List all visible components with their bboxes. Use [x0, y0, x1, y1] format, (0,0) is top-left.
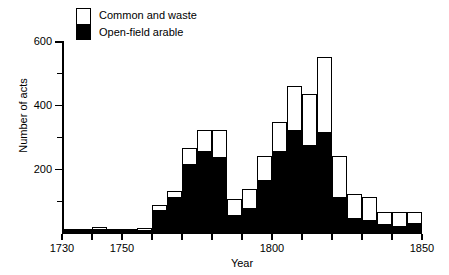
bar-segment-common-and-waste-1825 [347, 194, 362, 219]
bar-segment-common-and-waste-1770 [182, 148, 197, 165]
bar-segment-common-and-waste-1800 [272, 122, 287, 152]
bar-1800 [272, 122, 287, 232]
bar-segment-open-field-arable-1775 [197, 151, 212, 232]
bar-segment-common-and-waste-1830 [362, 197, 377, 220]
bar-segment-open-field-arable-1780 [212, 157, 227, 232]
bar-1735 [77, 229, 92, 232]
bar-segment-common-and-waste-1780 [212, 130, 227, 158]
bar-segment-open-field-arable-1840 [392, 226, 407, 232]
bar-1790 [242, 189, 257, 232]
bar-1840 [392, 212, 407, 233]
bar-segment-common-and-waste-1835 [377, 212, 392, 226]
bar-1830 [362, 197, 377, 232]
bar-segment-open-field-arable-1765 [167, 197, 182, 232]
bar-series-container [0, 0, 449, 275]
chart-figure: Common and waste Open-field arable 20040… [0, 0, 449, 275]
bar-1745 [107, 229, 122, 233]
bar-1775 [197, 130, 212, 232]
bar-segment-common-and-waste-1815 [317, 57, 332, 133]
bar-segment-open-field-arable-1785 [227, 215, 242, 233]
bar-segment-open-field-arable-1740 [92, 229, 107, 232]
bar-1795 [257, 156, 272, 233]
bar-segment-open-field-arable-1810 [302, 145, 317, 233]
bar-segment-open-field-arable-1745 [107, 230, 122, 233]
bar-segment-common-and-waste-1820 [332, 156, 347, 198]
bar-segment-common-and-waste-1790 [242, 189, 257, 209]
bar-segment-common-and-waste-1775 [197, 130, 212, 152]
bar-1740 [92, 227, 107, 232]
bar-1780 [212, 130, 227, 232]
bar-segment-open-field-arable-1795 [257, 180, 272, 233]
bar-segment-open-field-arable-1820 [332, 197, 347, 232]
bar-segment-open-field-arable-1735 [77, 230, 92, 232]
bar-1845 [407, 212, 422, 233]
bar-segment-common-and-waste-1795 [257, 156, 272, 181]
bar-segment-common-and-waste-1805 [287, 86, 302, 132]
bar-1815 [317, 57, 332, 232]
bar-segment-open-field-arable-1815 [317, 132, 332, 232]
bar-1770 [182, 148, 197, 233]
bar-1730 [62, 229, 77, 233]
bar-1835 [377, 212, 392, 233]
bar-segment-open-field-arable-1770 [182, 164, 197, 233]
bar-segment-open-field-arable-1760 [152, 210, 167, 232]
bar-segment-open-field-arable-1805 [287, 130, 302, 232]
bar-segment-open-field-arable-1845 [407, 223, 422, 233]
bar-segment-common-and-waste-1840 [392, 212, 407, 227]
bar-1810 [302, 94, 317, 233]
bar-segment-open-field-arable-1730 [62, 230, 77, 233]
bar-segment-common-and-waste-1810 [302, 94, 317, 146]
bar-segment-open-field-arable-1800 [272, 151, 287, 232]
bar-1805 [287, 86, 302, 233]
bar-segment-open-field-arable-1830 [362, 220, 377, 233]
bar-segment-common-and-waste-1785 [227, 199, 242, 216]
bar-1765 [167, 191, 182, 232]
bar-1785 [227, 199, 242, 232]
bar-1755 [137, 228, 152, 232]
bar-segment-open-field-arable-1835 [377, 224, 392, 232]
bar-segment-open-field-arable-1790 [242, 208, 257, 232]
bar-1825 [347, 194, 362, 232]
bar-1760 [152, 205, 167, 232]
bar-segment-open-field-arable-1755 [137, 230, 152, 233]
bar-1750 [122, 229, 137, 232]
bar-segment-open-field-arable-1750 [122, 230, 137, 232]
bar-segment-open-field-arable-1825 [347, 218, 362, 232]
bar-1820 [332, 156, 347, 233]
